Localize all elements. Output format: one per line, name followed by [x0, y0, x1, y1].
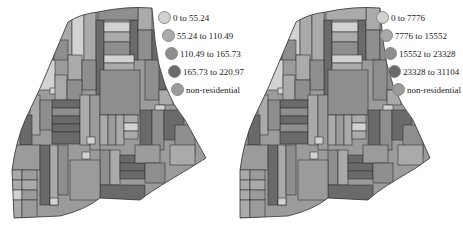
legend-swatch	[388, 65, 401, 78]
legend-label: 7776 to 15552	[395, 31, 447, 41]
legend-label: 55.24 to 110.49	[177, 31, 233, 41]
legend-swatch	[384, 47, 397, 60]
legend-swatch	[162, 29, 175, 42]
legend-item: 0 to 7776	[376, 11, 425, 24]
legend-item: 23328 to 31104	[388, 65, 459, 78]
legend-swatch	[168, 65, 181, 78]
legend-swatch	[165, 47, 178, 60]
legend-label: 23328 to 31104	[403, 67, 459, 77]
legend-swatch	[376, 11, 389, 24]
choropleth-map-right: 0 to 7776 7776 to 15552 15552 to 23328 2…	[232, 0, 463, 228]
legend-item: 7776 to 15552	[380, 29, 447, 42]
legend-label: 0 to 55.24	[173, 13, 209, 23]
legend-item: non-residential	[392, 83, 461, 96]
legend-item: 110.49 to 165.73	[165, 47, 241, 60]
choropleth-map-left: 0 to 55.24 55.24 to 110.49 110.49 to 165…	[0, 0, 231, 228]
legend-label: 0 to 7776	[391, 13, 425, 23]
legend-item: non-residential	[171, 83, 240, 96]
legend-item: 0 to 55.24	[158, 11, 209, 24]
legend-swatch	[380, 29, 393, 42]
legend-swatch	[171, 83, 184, 96]
legend-label: non-residential	[407, 85, 461, 95]
legend-label: 15552 to 23328	[399, 49, 456, 59]
legend-swatch	[158, 11, 171, 24]
legend-item: 15552 to 23328	[384, 47, 456, 60]
legend-item: 55.24 to 110.49	[162, 29, 233, 42]
legend-swatch	[392, 83, 405, 96]
